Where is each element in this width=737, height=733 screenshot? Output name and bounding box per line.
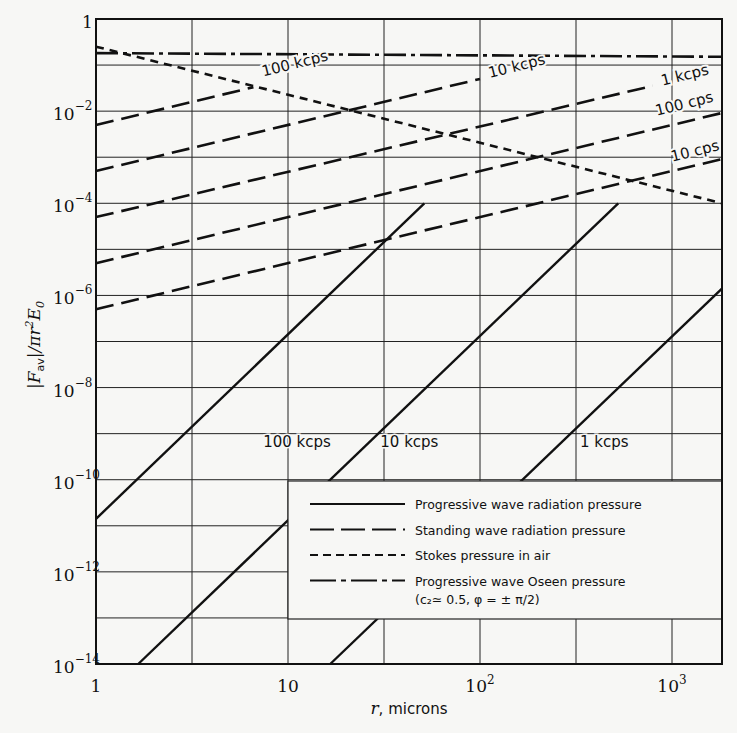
x-tick-label: 10 [277,676,299,696]
legend: Progressive wave radiation pressureStand… [288,481,722,619]
curve-label: 100 kcps [263,433,331,451]
curve-label: 10 kcps [380,433,438,451]
x-tick-label: 1 [91,676,102,696]
y-tick-label: 10−2 [53,99,92,124]
chart-canvas: 100 kcps10 kcps1 kcps100 kcps10 kcps1 kc… [0,0,737,733]
series-long-dash-line [96,87,253,125]
y-tick-label: 1 [82,12,93,32]
x-axis-title: r, microns [370,698,447,718]
legend-label: Progressive wave radiation pressure [415,497,642,512]
y-axis-ticks: 110−210−410−610−810−1010−1210−14 [53,12,100,677]
y-tick-label: 10−12 [53,560,100,585]
series-long-dash-line [96,159,722,309]
legend-label: Progressive wave Oseen pressure [415,574,626,589]
x-axis-ticks: 110102103 [91,673,687,696]
svg-text:|Fav|/πr2E0: |Fav|/πr2E0 [23,301,47,389]
legend-label: Standing wave radiation pressure [415,523,626,538]
series-short-dash-line [96,47,722,204]
y-tick-label: 10−6 [53,283,92,308]
series-long-dash-line [96,113,722,263]
y-tick-label: 10−8 [53,376,92,401]
series-solid-line [96,203,424,519]
y-axis-title: |Fav|/πr2E0 [23,301,47,389]
curve-label: 100 cps [653,88,715,120]
y-tick-label: 10−10 [53,468,100,493]
series-dash-dot-line [96,53,722,57]
x-tick-label: 103 [657,673,686,696]
x-tick-label: 102 [465,673,494,696]
legend-sublabel: (c₂≃ 0.5, φ = ± π/2) [415,592,540,607]
y-tick-label: 10−14 [53,652,100,677]
legend-label: Stokes pressure in air [415,548,551,563]
y-tick-label: 10−4 [53,191,93,216]
curve-label: 100 kcps [260,47,330,81]
curve-label: 1 kcps [580,433,629,451]
